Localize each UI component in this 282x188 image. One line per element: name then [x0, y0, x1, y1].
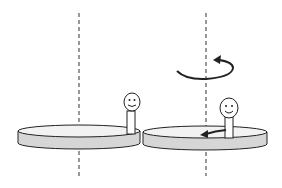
left-person-eye-icon [134, 99, 136, 101]
left-person-body [127, 111, 135, 134]
left-panel [18, 13, 140, 176]
right-person-body [225, 117, 233, 138]
left-person-head [124, 93, 140, 111]
turntable-diagram [0, 0, 282, 188]
right-person-head [220, 98, 238, 118]
right-person-eye-icon [225, 105, 227, 107]
right-person-eye-icon [231, 105, 233, 107]
rotation-arrow-icon [177, 55, 233, 79]
left-disk-top [18, 125, 140, 137]
left-person-eye-icon [129, 99, 131, 101]
right-panel [143, 13, 267, 176]
